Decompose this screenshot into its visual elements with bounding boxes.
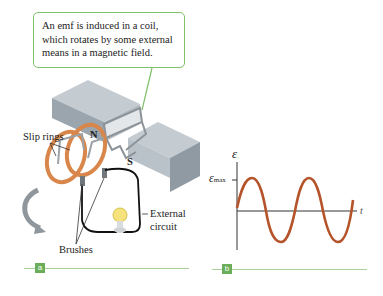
generator-illustration xyxy=(0,0,383,296)
emax-label: εmax xyxy=(209,172,226,186)
label-brushes: Brushes xyxy=(59,244,93,256)
emf-graph xyxy=(232,162,357,250)
label-north: N xyxy=(90,129,98,141)
x-axis-label: t xyxy=(360,205,363,217)
slip-rings xyxy=(40,119,112,187)
panel-a-rule xyxy=(24,268,189,269)
light-bulb-icon xyxy=(113,208,127,233)
label-external: External xyxy=(150,208,186,220)
panel-b-tag: b xyxy=(222,264,232,274)
external-circuit-wire xyxy=(82,169,140,232)
rotation-arrow-icon xyxy=(25,190,40,228)
figure: An emf is induced in a coil, which rotat… xyxy=(0,0,383,296)
label-circuit: circuit xyxy=(150,221,177,233)
label-south: S xyxy=(127,156,133,168)
panel-b-rule xyxy=(212,269,367,270)
brush-1 xyxy=(80,176,85,186)
y-axis-label: ε xyxy=(232,148,237,160)
callout-pointer xyxy=(142,68,152,110)
label-slip-rings: Slip rings xyxy=(23,131,64,143)
emf-sine-curve xyxy=(237,178,353,242)
panel-a-tag: a xyxy=(35,263,45,273)
